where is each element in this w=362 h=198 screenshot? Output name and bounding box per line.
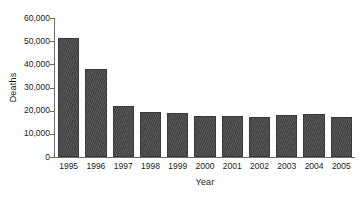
y-axis-tick-label-group: 010,00020,00030,00040,00050,00060,000 — [0, 0, 50, 198]
x-axis-tick-label-group: 1995199619971998199920002001200220032004… — [55, 161, 355, 173]
y-axis-tick-label: 50,000 — [2, 37, 50, 46]
x-axis-tick-label: 2002 — [246, 161, 273, 172]
bar-group — [276, 18, 297, 157]
bar — [194, 116, 215, 157]
y-axis-tick-label: 60,000 — [2, 14, 50, 23]
bar — [58, 38, 79, 157]
x-axis-tick-label: 2005 — [328, 161, 355, 172]
x-axis-tick-label: 2004 — [300, 161, 327, 172]
x-axis-tick-label: 1998 — [137, 161, 164, 172]
y-axis-tick-mark — [50, 41, 54, 42]
bar — [167, 113, 188, 157]
bar — [113, 106, 134, 157]
y-axis-tick-mark — [50, 88, 54, 89]
bar-group — [331, 18, 352, 157]
x-axis-tick-label: 1995 — [55, 161, 82, 172]
y-axis-tick-label: 0 — [2, 153, 50, 162]
x-axis-tick-label: 2003 — [273, 161, 300, 172]
y-axis-tick-mark — [50, 157, 54, 158]
bar — [276, 115, 297, 157]
y-axis-tick-mark — [50, 111, 54, 112]
x-axis-line — [54, 157, 355, 158]
bar-group — [167, 18, 188, 157]
bar — [140, 112, 161, 157]
x-axis-tick-label: 1996 — [82, 161, 109, 172]
bar-group — [113, 18, 134, 157]
bar-group — [303, 18, 324, 157]
x-axis-tick-label: 2000 — [191, 161, 218, 172]
x-axis-title: Year — [55, 177, 355, 188]
y-axis-tick-mark — [50, 134, 54, 135]
bar-group — [194, 18, 215, 157]
bar-group — [58, 18, 79, 157]
y-axis-tick-label: 40,000 — [2, 60, 50, 69]
y-axis-tick-label: 20,000 — [2, 106, 50, 115]
bar — [222, 116, 243, 157]
bar-group — [85, 18, 106, 157]
bar-group — [249, 18, 270, 157]
y-axis-tick-label: 30,000 — [2, 83, 50, 92]
bar-chart-figure: Deaths 010,00020,00030,00040,00050,00060… — [0, 0, 362, 198]
bar — [249, 117, 270, 157]
x-axis-tick-label: 2001 — [219, 161, 246, 172]
y-axis-tick-mark — [50, 18, 54, 19]
plot-area — [55, 18, 355, 157]
bar — [331, 117, 352, 157]
x-axis-tick-label: 1999 — [164, 161, 191, 172]
y-axis-tick-label: 10,000 — [2, 129, 50, 138]
bar-group — [140, 18, 161, 157]
bar-group — [222, 18, 243, 157]
bar — [85, 69, 106, 157]
y-axis-tick-mark — [50, 64, 54, 65]
bar — [303, 114, 324, 157]
x-axis-tick-label: 1997 — [110, 161, 137, 172]
